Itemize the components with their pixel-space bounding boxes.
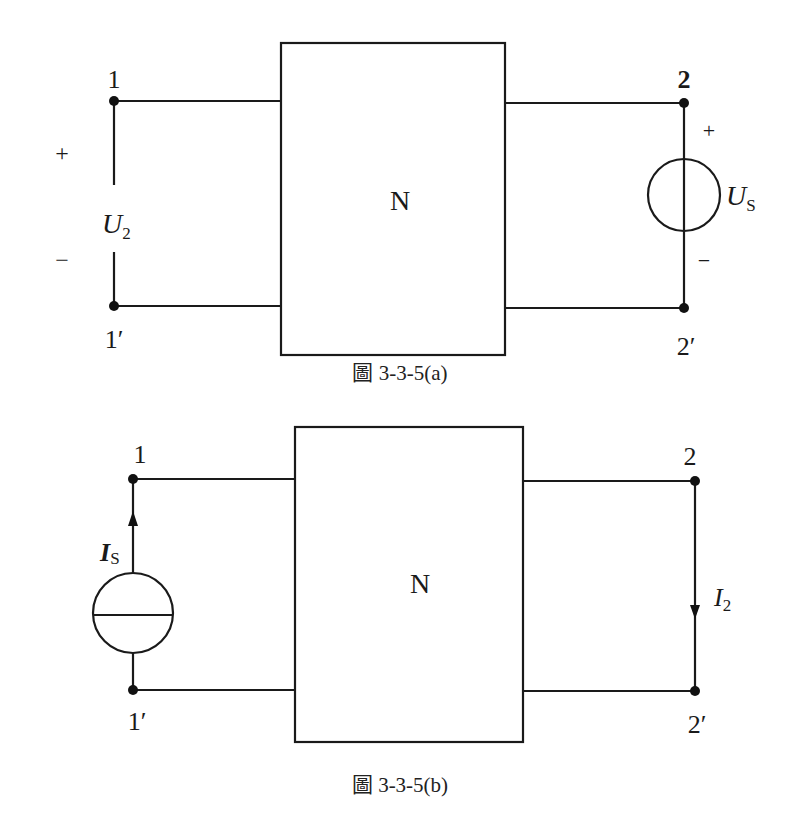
voltage-label-u2: U2 bbox=[102, 208, 131, 243]
labels-b: 1 1′ 2 2′ N IS I2 圖 3-3-5(b) bbox=[99, 440, 731, 797]
terminal-label-1prime-b: 1′ bbox=[128, 707, 147, 736]
terminal-label-1-a: 1 bbox=[108, 65, 121, 94]
node-2-b bbox=[690, 476, 700, 486]
plus-sign-u2: + bbox=[55, 140, 69, 166]
figure-a bbox=[114, 43, 720, 355]
terminal-label-2-a: 2 bbox=[678, 65, 691, 94]
terminal-label-1-b: 1 bbox=[134, 440, 147, 469]
node-1-b bbox=[128, 474, 138, 484]
minus-sign-us: − bbox=[698, 248, 710, 273]
plus-sign-us: + bbox=[703, 118, 715, 143]
figure-b bbox=[93, 427, 695, 742]
current-source-label-is: IS bbox=[99, 538, 120, 568]
node-2prime-a bbox=[679, 303, 689, 313]
arrow-down-icon bbox=[690, 605, 700, 619]
terminal-label-2prime-b: 2′ bbox=[688, 710, 707, 739]
network-label-a: N bbox=[390, 185, 410, 216]
terminal-label-1prime-a: 1′ bbox=[105, 325, 124, 354]
node-1prime-b bbox=[128, 685, 138, 695]
circuit-diagrams: 1 1′ 2 2′ N + − U2 + − US 圖 3-3-5(a) bbox=[0, 0, 789, 834]
node-1prime-a bbox=[109, 301, 119, 311]
arrow-up-icon bbox=[128, 511, 138, 526]
terminal-label-2prime-a: 2′ bbox=[677, 332, 696, 361]
labels-a: 1 1′ 2 2′ N + − U2 + − US 圖 3-3-5(a) bbox=[55, 65, 755, 385]
caption-b: 圖 3-3-5(b) bbox=[352, 773, 448, 797]
network-label-b: N bbox=[410, 568, 430, 599]
current-label-i2: I2 bbox=[713, 583, 731, 615]
voltage-source-label-us: US bbox=[726, 180, 756, 215]
node-2prime-b bbox=[690, 686, 700, 696]
node-1-a bbox=[109, 96, 119, 106]
current-source-icon bbox=[93, 573, 173, 653]
caption-a: 圖 3-3-5(a) bbox=[352, 361, 447, 385]
minus-sign-u2: − bbox=[55, 247, 69, 273]
node-2-a bbox=[679, 98, 689, 108]
terminal-label-2-b: 2 bbox=[684, 442, 697, 471]
